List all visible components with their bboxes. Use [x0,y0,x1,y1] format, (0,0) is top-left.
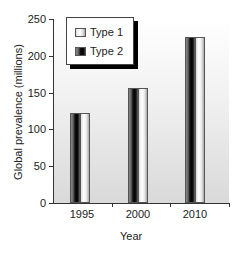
y-tick [49,203,53,204]
type1-swatch-icon [75,28,86,37]
y-tick [49,19,53,20]
x-tick [112,203,113,207]
bar-type2-2000 [128,88,138,203]
bar-type2-1995 [70,113,80,203]
y-tick [49,166,53,167]
y-tick-label: 250 [14,13,46,25]
bar-type1-2000 [138,88,148,203]
legend-item-type2: Type 2 [75,45,123,57]
legend-label: Type 1 [90,26,123,38]
legend: Type 1 Type 2 [66,17,134,65]
y-tick-label: 0 [14,197,46,209]
legend-label: Type 2 [90,45,123,57]
x-axis-title: Year [120,230,142,242]
bar-type1-1995 [80,113,90,203]
bar-type2-2010 [185,37,195,203]
x-axis [53,203,230,204]
y-axis-title: Global prevalence (millions) [12,37,24,187]
x-tick [170,203,171,207]
y-tick [49,93,53,94]
x-tick-label: 1995 [62,208,102,220]
y-tick [49,56,53,57]
bar-type1-2010 [195,37,205,203]
x-tick [229,203,230,207]
x-tick-label: 2010 [175,208,215,220]
y-axis [53,19,54,204]
type2-swatch-icon [75,47,86,56]
y-tick [49,129,53,130]
x-tick-label: 2000 [118,208,158,220]
legend-item-type1: Type 1 [75,26,123,38]
